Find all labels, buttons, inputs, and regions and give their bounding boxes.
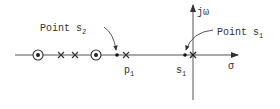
p1-label: p1 <box>124 65 134 78</box>
point-s1-dot <box>183 53 187 57</box>
zero-marker-2 <box>91 50 101 60</box>
real-axis-label: σ <box>228 61 234 72</box>
zero-marker-1 <box>33 50 43 60</box>
s2-annotation-arrow <box>104 27 116 50</box>
s1-annotation-arrow <box>186 30 213 50</box>
point-s1-label: Point s1 <box>217 27 263 40</box>
s1-label: s1 <box>176 65 186 78</box>
imaginary-axis-label: jω <box>197 7 209 18</box>
point-s2-dot <box>115 53 119 57</box>
s-plane-diagram: Point s2 Point s1 p1 s1 jω σ <box>0 0 280 109</box>
point-s2-label: Point s2 <box>40 23 86 36</box>
